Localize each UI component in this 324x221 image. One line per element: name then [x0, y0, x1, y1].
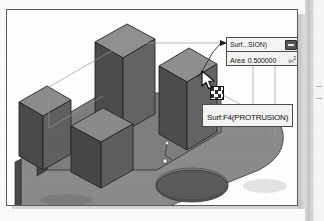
arrow-pointer-icon	[201, 70, 217, 96]
callout-title-label: Surf...SION)	[230, 38, 285, 51]
area-unit-exponent: 2	[293, 55, 296, 61]
area-label: Area	[230, 54, 245, 67]
area-value: 0.500000	[248, 54, 286, 67]
measurement-callout-panel[interactable]: Surf...SION) Area 0.500000 in2	[226, 37, 298, 66]
page-outer-edge	[314, 0, 324, 221]
surface-name-tooltip: Surf:F4(PROTRUSION)	[202, 104, 293, 127]
cad-viewport-figure: Surf...SION) Area 0.500000 in2 Surf:F4(P…	[6, 9, 298, 206]
tooltip-label: Surf:F4(PROTRUSION)	[207, 113, 288, 122]
callout-area-row: Area 0.500000 in2	[227, 52, 298, 65]
area-unit: in2	[289, 52, 296, 68]
base-plate-hole	[156, 170, 228, 202]
base-plate-left-face	[15, 159, 21, 206]
figure-drop-shadow-right	[298, 14, 305, 209]
callout-title-bar[interactable]: Surf...SION)	[227, 38, 298, 52]
page-edge-mark	[316, 86, 322, 87]
minimize-icon[interactable]	[285, 40, 297, 50]
page-gutter-shading	[305, 0, 314, 221]
page-edge-mark	[316, 98, 322, 99]
scanned-page-background: Surf...SION) Area 0.500000 in2 Surf:F4(P…	[0, 0, 324, 221]
